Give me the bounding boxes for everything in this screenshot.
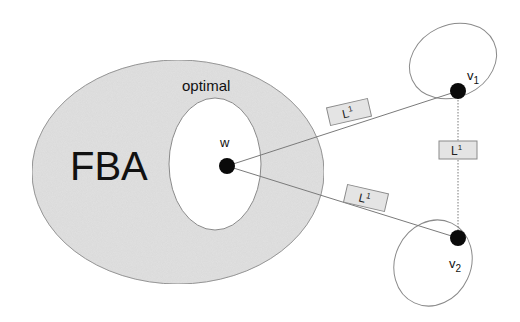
point-v2 [450, 230, 466, 246]
v2-label: v2 [449, 256, 462, 274]
point-v1 [450, 83, 466, 99]
optimal-label: optimal [182, 77, 230, 94]
diagram-canvas: L1 L1 L1 FBA optimal w v1 v2 [0, 0, 520, 322]
fba-label: FBA [70, 144, 148, 188]
point-w [219, 158, 235, 174]
edge-label-v1-v2: L1 [439, 141, 477, 159]
w-label: w [219, 135, 230, 150]
v1-label: v1 [467, 68, 480, 86]
optimal-region [169, 98, 261, 230]
edge-label-w-v2: L1 [344, 185, 389, 212]
v2-neighborhood [380, 207, 486, 319]
